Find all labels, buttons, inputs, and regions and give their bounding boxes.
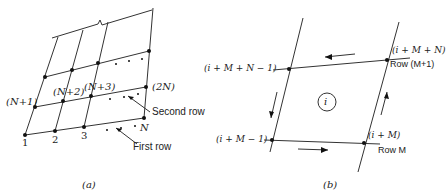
node-label-n: N: [140, 123, 149, 133]
node-label-n-plus-1: (N+1): [6, 97, 37, 107]
node-label-2n: (2N): [152, 82, 175, 92]
caption-b: (b): [323, 180, 337, 190]
node-label-top-left: (i + M + N − 1): [204, 64, 277, 73]
node-label-bottom-left: (i + M − 1): [216, 135, 267, 144]
break-line: [52, 10, 152, 38]
caption-a: (a): [82, 180, 96, 190]
node-label-1: 1: [22, 138, 28, 148]
row-label-bottom: Row M: [378, 146, 406, 155]
node-label-n-plus-3: (N+3): [84, 82, 115, 92]
row-label-top: Row (M+1): [390, 60, 434, 69]
first-row-label: First row: [133, 142, 171, 152]
second-row-label: Second row: [152, 107, 205, 117]
node-label-bottom-right: (i + M): [368, 131, 400, 140]
element-label: i: [324, 97, 327, 107]
node-label-2: 2: [52, 135, 58, 145]
node-label-n-plus-2: (N+2): [53, 87, 84, 97]
node-label-3: 3: [81, 131, 87, 141]
node-label-top-right: (i + M + N): [392, 46, 446, 55]
